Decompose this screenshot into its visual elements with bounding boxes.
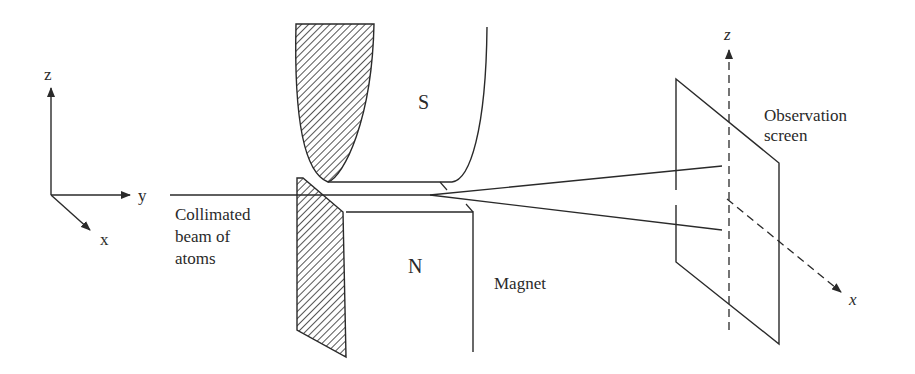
- coordinate-axes-left: [51, 88, 130, 230]
- lower-deflected-beam: [430, 195, 722, 230]
- screen-x-axis: [727, 199, 841, 292]
- south-pole-hatched-face: [296, 24, 374, 182]
- observation-screen-label-line-1: Observation: [764, 106, 848, 125]
- z-axis-label: z: [44, 65, 52, 84]
- observation-screen-label: Observation screen: [764, 106, 851, 145]
- y-axis-label: y: [138, 186, 147, 205]
- north-pole-magnet: [297, 178, 473, 357]
- beam-label-line-3: atoms: [175, 249, 216, 268]
- south-pole-label: S: [418, 91, 429, 113]
- north-pole-body-outline: [346, 212, 473, 352]
- upper-deflected-beam: [430, 166, 722, 195]
- screen-z-axis-label: z: [723, 25, 731, 44]
- x-axis-label: x: [100, 230, 109, 249]
- beam-label-line-1: Collimated: [175, 205, 251, 224]
- beam-label: Collimated beam of atoms: [175, 205, 255, 268]
- observation-screen-label-line-2: screen: [764, 126, 808, 145]
- south-pole-edge-tick: [440, 182, 447, 190]
- magnet-label: Magnet: [494, 274, 546, 293]
- north-pole-edge-tick: [466, 204, 473, 212]
- screen-x-axis-label: x: [848, 290, 857, 309]
- stern-gerlach-diagram: z y x S N Magnet Collimated beam of atom…: [0, 0, 915, 374]
- deflected-beams: [430, 166, 722, 230]
- beam-label-line-2: beam of: [175, 227, 231, 246]
- x-axis-arrow: [51, 195, 90, 230]
- north-pole-hatched-face: [297, 178, 346, 357]
- south-pole-magnet: [296, 24, 487, 190]
- north-pole-label: N: [408, 255, 422, 277]
